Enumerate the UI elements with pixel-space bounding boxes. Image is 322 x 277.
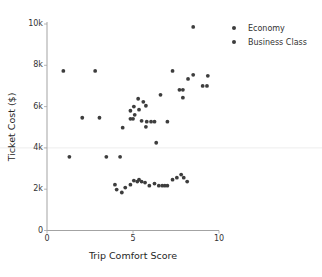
legend-item-business-class: Business Class <box>230 35 307 49</box>
point-business-class <box>141 100 145 104</box>
y-axis-title: Ticket Cost ($) <box>6 93 17 162</box>
economy-marker-icon <box>232 26 236 30</box>
point-economy <box>115 188 119 192</box>
point-business-class <box>145 120 149 124</box>
point-business-class <box>205 84 209 88</box>
point-business-class <box>132 105 136 109</box>
point-economy <box>123 186 127 190</box>
point-business-class <box>191 73 195 77</box>
point-economy <box>104 155 108 159</box>
point-business-class <box>80 116 84 120</box>
point-business-class <box>159 93 163 97</box>
point-business-class <box>201 84 205 88</box>
point-economy <box>153 182 157 186</box>
legend-label-economy: Economy <box>248 24 285 33</box>
point-economy <box>143 181 147 185</box>
y-tick-label: 10k <box>15 19 43 29</box>
scatter-chart: 02k4k6k8k10k0510 Ticket Cost ($) Trip Co… <box>0 0 322 277</box>
point-business-class <box>121 126 125 130</box>
point-business-class <box>133 113 137 117</box>
point-business-class <box>93 69 97 73</box>
point-economy <box>67 155 71 159</box>
point-economy <box>182 176 186 180</box>
point-business-class <box>137 108 141 112</box>
legend-item-economy: Economy <box>230 21 307 35</box>
point-economy <box>132 179 136 183</box>
point-business-class <box>171 69 175 73</box>
point-business-class <box>140 119 144 123</box>
point-economy <box>175 176 179 180</box>
y-tick-label: 6k <box>15 102 43 112</box>
point-business-class <box>154 141 158 145</box>
point-economy <box>140 180 144 184</box>
point-business-class <box>144 104 148 108</box>
point-economy <box>157 184 161 188</box>
business-class-marker-icon <box>232 40 236 44</box>
point-business-class <box>206 74 210 78</box>
y-tick-label: 8k <box>15 60 43 70</box>
point-business-class <box>136 97 140 101</box>
x-tick-label: 5 <box>121 234 145 244</box>
y-tick-label: 2k <box>15 184 43 194</box>
x-tick-label: 10 <box>207 234 231 244</box>
point-business-class <box>153 120 157 124</box>
point-economy <box>171 178 175 182</box>
x-tick-label: 0 <box>35 234 59 244</box>
point-business-class <box>144 125 148 129</box>
x-axis-title: Trip Comfort Score <box>89 250 177 261</box>
point-business-class <box>186 77 190 81</box>
point-business-class <box>191 25 195 29</box>
point-economy <box>120 191 124 195</box>
y-tick-label: 4k <box>15 143 43 153</box>
point-economy <box>118 155 122 159</box>
point-business-class <box>129 109 133 113</box>
point-economy <box>129 183 133 187</box>
point-business-class <box>181 96 185 100</box>
point-business-class <box>166 120 170 124</box>
point-business-class <box>61 69 65 73</box>
point-business-class <box>181 88 185 92</box>
point-economy <box>113 183 117 187</box>
point-business-class <box>178 88 182 92</box>
point-economy <box>179 173 183 177</box>
point-business-class <box>131 117 135 121</box>
legend-label-business-class: Business Class <box>248 38 307 47</box>
legend: Economy Business Class <box>230 21 307 49</box>
point-business-class <box>149 120 153 124</box>
point-economy <box>147 184 151 188</box>
point-business-class <box>98 116 102 120</box>
point-economy <box>166 184 170 188</box>
point-economy <box>185 180 189 184</box>
